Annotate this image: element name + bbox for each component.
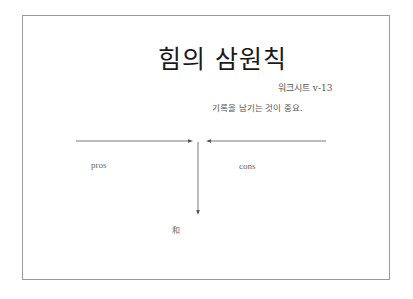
note-text: 기록을 남기는 것이 중요. [212, 104, 303, 113]
slide-title: 힘의 삼원칙 [158, 47, 287, 72]
pros-label: pros [91, 161, 107, 170]
cons-label: cons [239, 162, 256, 171]
worksheet-version: 워크시트 v-13 [278, 84, 332, 93]
harmony-label: 和 [172, 227, 180, 235]
